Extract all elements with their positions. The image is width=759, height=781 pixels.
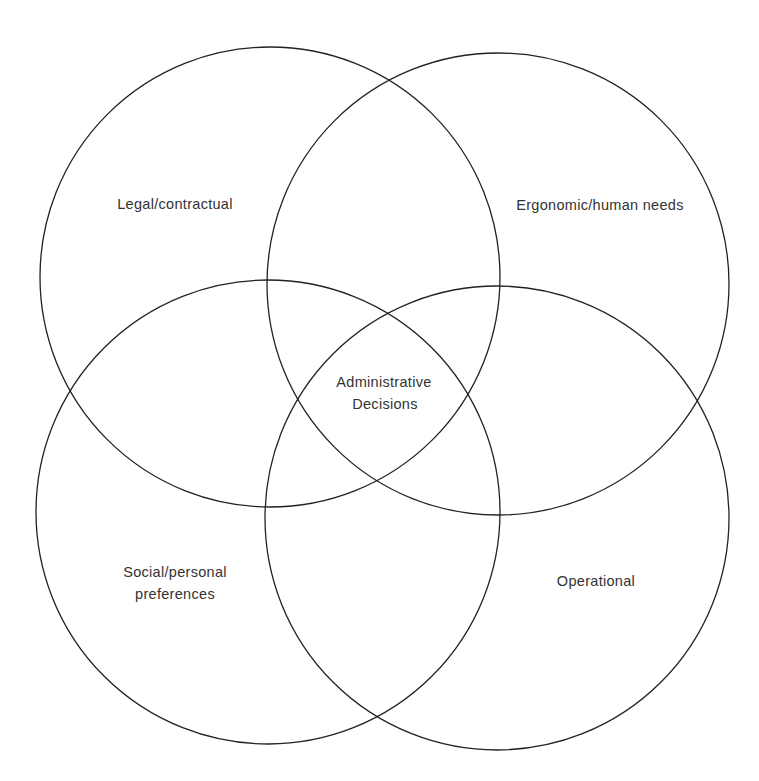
label-legal-contractual: Legal/contractual xyxy=(117,196,233,212)
circle-ergonomic-human-needs xyxy=(267,53,729,515)
circle-operational xyxy=(265,286,729,750)
label-operational: Operational xyxy=(557,573,635,589)
label-ergonomic-human-needs: Ergonomic/human needs xyxy=(516,197,684,213)
label-social-personal: Social/personal xyxy=(123,564,227,580)
venn-diagram: Legal/contractual Ergonomic/human needs … xyxy=(0,0,759,781)
circle-legal-contractual xyxy=(40,47,500,507)
circle-social-personal-preferences xyxy=(36,280,500,744)
label-decisions: Decisions xyxy=(352,396,418,412)
label-preferences: preferences xyxy=(135,586,215,602)
label-administrative: Administrative xyxy=(336,374,431,390)
